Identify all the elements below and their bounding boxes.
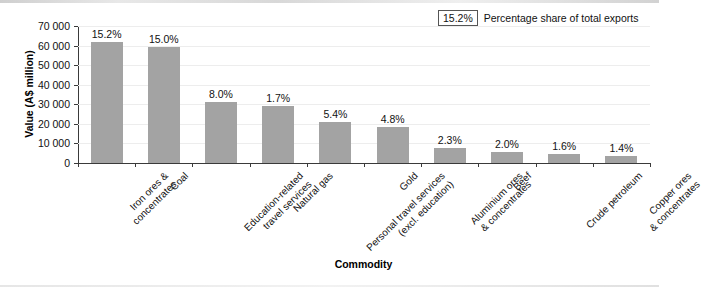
x-axis-tick-mark	[135, 163, 136, 167]
x-axis-tick-mark	[192, 163, 193, 167]
bar	[91, 42, 123, 163]
x-axis-category-line: (excl. education)	[373, 178, 456, 261]
bar	[205, 102, 237, 163]
y-axis-tick-label: 10 000	[38, 137, 70, 149]
bar-slot: 5.4%	[319, 26, 351, 163]
x-axis-tick-mark	[421, 163, 422, 167]
bar-slot: 1.4%	[605, 26, 637, 163]
y-axis-tick-label: 70 000	[38, 20, 70, 32]
bar-slot: 2.0%	[491, 26, 523, 163]
bar-slot: 15.2%	[91, 26, 123, 163]
bar	[319, 122, 351, 163]
x-axis-tick-mark	[478, 163, 479, 167]
y-axis-tick-label: 20 000	[38, 118, 70, 130]
y-axis-tick-label: 60 000	[38, 40, 70, 52]
bar-data-label: 2.3%	[438, 134, 462, 146]
legend-description: Percentage share of total exports	[484, 12, 639, 24]
x-axis-category-label: Copper ores& concentrates	[639, 170, 702, 233]
x-axis-category-line: Crude petroleum	[584, 170, 645, 231]
bar-data-label: 1.4%	[609, 142, 633, 154]
plot-area: 010 00020 00030 00040 00050 00060 00070 …	[78, 26, 650, 163]
x-axis-tick-mark	[364, 163, 365, 167]
chart-legend: 15.2% Percentage share of total exports	[438, 10, 638, 26]
bar	[491, 152, 523, 163]
y-axis-title: Value (A$ million)	[23, 24, 35, 164]
bar	[434, 148, 466, 163]
bar-slot: 8.0%	[205, 26, 237, 163]
bar-data-label: 2.0%	[495, 138, 519, 150]
x-axis-tick-mark	[250, 163, 251, 167]
bar-slot: 2.3%	[434, 26, 466, 163]
y-axis-tick-label: 50 000	[38, 59, 70, 71]
bar	[548, 154, 580, 163]
x-axis-tick-mark	[536, 163, 537, 167]
x-axis-tick-mark	[307, 163, 308, 167]
bar-data-label: 4.8%	[381, 113, 405, 125]
x-axis-category-label: Crude petroleum	[584, 170, 645, 231]
x-axis-category-label: Iron ores &concentrates	[121, 170, 178, 227]
x-axis-tick-mark	[650, 163, 651, 167]
x-axis-title: Commodity	[0, 258, 659, 270]
bar-data-label: 1.6%	[552, 140, 576, 152]
x-axis-tick-mark	[78, 163, 79, 167]
scan-edge-top	[0, 0, 659, 3]
legend-swatch: 15.2%	[438, 10, 478, 26]
bar-slot: 15.0%	[148, 26, 180, 163]
bar-data-label: 1.7%	[266, 92, 290, 104]
bar-data-label: 15.0%	[149, 33, 179, 45]
bar-slot: 1.6%	[548, 26, 580, 163]
bar	[148, 47, 180, 163]
bar-data-label: 5.4%	[323, 108, 347, 120]
bar-slot: 4.8%	[377, 26, 409, 163]
bar	[605, 156, 637, 163]
bar-slot: 1.7%	[262, 26, 294, 163]
y-axis-tick-label: 40 000	[38, 79, 70, 91]
bar-series: 15.2%15.0%8.0%1.7%5.4%4.8%2.3%2.0%1.6%1.…	[78, 26, 650, 163]
bar-data-label: 15.2%	[92, 28, 122, 40]
bar	[377, 127, 409, 163]
bar	[262, 106, 294, 163]
x-axis-tick-mark	[593, 163, 594, 167]
x-axis-category-line: Gold	[397, 170, 420, 193]
y-axis-tick-label: 0	[64, 157, 70, 169]
bar-data-label: 8.0%	[209, 88, 233, 100]
x-axis-category-label: Gold	[397, 170, 420, 193]
y-axis-tick-label: 30 000	[38, 98, 70, 110]
